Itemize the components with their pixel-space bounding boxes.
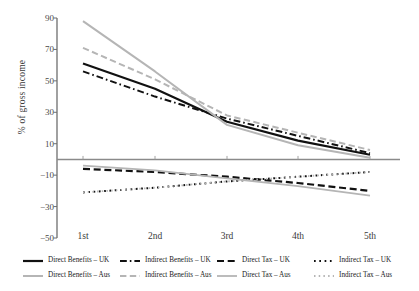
legend-swatch <box>119 257 141 265</box>
legend-item[interactable]: Direct Benefits – UK <box>22 257 119 265</box>
legend-label: Direct Benefits – Aus <box>48 272 110 279</box>
legend-label: Direct Benefits – UK <box>48 257 109 264</box>
legend-swatch <box>119 272 141 280</box>
legend-item[interactable]: Indirect Tax – UK <box>313 257 410 265</box>
legend-swatch <box>216 257 238 265</box>
legend-label: Direct Tax – Aus <box>242 272 291 279</box>
legend-item[interactable]: Direct Tax – Aus <box>216 272 313 280</box>
series-line <box>83 64 370 155</box>
legend-swatch <box>216 272 238 280</box>
legend-item[interactable]: Direct Tax – UK <box>216 257 313 265</box>
legend-label: Indirect Benefits – UK <box>145 257 211 264</box>
legend-item[interactable]: Direct Benefits – Aus <box>22 272 119 280</box>
legend-row-aus: Direct Benefits – AusIndirect Benefits –… <box>22 268 412 283</box>
series-line <box>83 169 370 191</box>
plot-area <box>0 0 419 291</box>
legend-label: Indirect Benefits – Aus <box>145 272 211 279</box>
legend-row-uk: Direct Benefits – UKIndirect Benefits – … <box>22 253 412 268</box>
chart-container: % of gross income 9070503010−10−30−50 1s… <box>0 0 419 291</box>
legend-swatch <box>22 272 44 280</box>
legend-label: Direct Tax – UK <box>242 257 290 264</box>
legend-swatch <box>22 257 44 265</box>
legend-item[interactable]: Indirect Benefits – Aus <box>119 272 216 280</box>
legend-item[interactable]: Indirect Benefits – UK <box>119 257 216 265</box>
series-line <box>83 48 370 150</box>
series-line <box>83 21 370 158</box>
legend-label: Indirect Tax – Aus <box>339 272 392 279</box>
legend-swatch <box>313 272 335 280</box>
chart-legend: Direct Benefits – UKIndirect Benefits – … <box>22 253 412 283</box>
legend-label: Indirect Tax – UK <box>339 257 391 264</box>
series-line <box>83 71 370 153</box>
legend-swatch <box>313 257 335 265</box>
legend-item[interactable]: Indirect Tax – Aus <box>313 272 410 280</box>
